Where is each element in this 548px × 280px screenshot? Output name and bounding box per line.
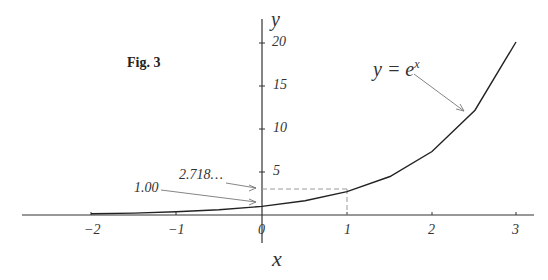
curve-label-base: y = e <box>373 58 414 80</box>
y-axis-label: y <box>271 8 280 31</box>
y-tick-10: 10 <box>273 120 287 136</box>
curve-label-exponent: x <box>414 57 419 71</box>
one-value-label: 1.00 <box>134 180 159 196</box>
y-tick-5: 5 <box>273 163 280 179</box>
x-tick-2: 2 <box>428 222 435 238</box>
x-tick-3: 3 <box>512 222 519 238</box>
x-axis-label: x <box>272 246 282 272</box>
y-tick-15: 15 <box>273 77 287 93</box>
x-tick-0: 0 <box>258 222 265 238</box>
x-tick-neg2: −2 <box>84 222 100 238</box>
figure-label: Fig. 3 <box>127 55 160 71</box>
y-tick-20: 20 <box>272 34 286 50</box>
annotation-arrows <box>161 74 464 205</box>
x-tick-neg1: −1 <box>168 222 184 238</box>
e-value-label: 2.718… <box>179 167 223 183</box>
x-tick-1: 1 <box>344 222 351 238</box>
curve-label: y = ex <box>373 57 420 81</box>
